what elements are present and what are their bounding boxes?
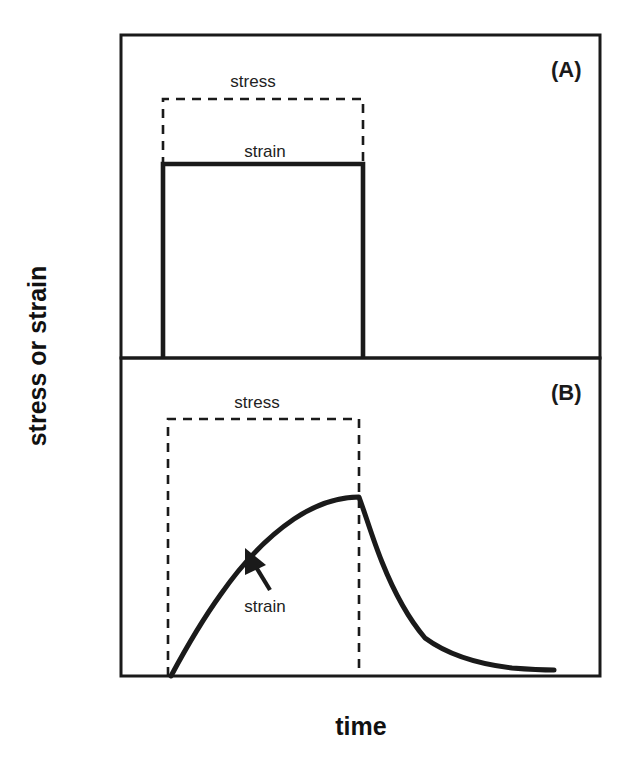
panel-a-strain-curve	[163, 164, 363, 358]
panel-a-stress-curve	[163, 99, 363, 358]
panel-b-frame	[121, 358, 600, 676]
panel-b-label: (B)	[551, 380, 582, 405]
panel-a-stress-label: stress	[230, 72, 275, 91]
stress-strain-figure: stress or strain (A) stress strain (B) s…	[0, 0, 628, 762]
panel-b-strain-label: strain	[244, 597, 286, 616]
panel-b-stress-label: stress	[234, 393, 279, 412]
panel-a-strain-label: strain	[244, 142, 286, 161]
figure-container: stress or strain (A) stress strain (B) s…	[0, 0, 628, 762]
y-axis-title: stress or strain	[23, 266, 51, 447]
panel-a-frame	[121, 35, 600, 358]
panel-b-stress-curve	[168, 419, 359, 676]
panel-a-label: (A)	[551, 57, 582, 82]
x-axis-title: time	[335, 712, 387, 740]
panel-b-strain-curve	[171, 497, 554, 676]
